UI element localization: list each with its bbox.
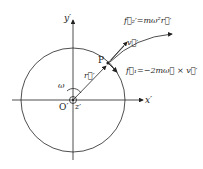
point-p <box>106 61 109 64</box>
x-axis-label: x′ <box>145 96 152 105</box>
f1-arrow <box>108 63 117 72</box>
point-label: P <box>98 56 104 65</box>
f1-label: f⃗₁=−2mω⃗ × v⃗′ <box>126 67 197 75</box>
rotating-frame-diagram: y′ x′ O′ z′ ω P r⃗′ v⃗′ f⃗₂′=mω²r⃗′ f⃗₁=… <box>0 0 203 169</box>
trajectory-curve <box>110 34 172 62</box>
omega-arc <box>67 89 81 93</box>
r-vector-label: r⃗′ <box>84 72 94 80</box>
v-vector-label: v⃗′ <box>127 39 138 47</box>
y-axis-label: y′ <box>64 14 71 23</box>
v-arrow <box>111 46 124 60</box>
diagram-canvas <box>0 0 203 169</box>
z-axis-label: z′ <box>75 103 81 111</box>
f2-label: f⃗₂′=mω²r⃗′ <box>124 17 171 25</box>
origin-label: O′ <box>59 103 68 112</box>
omega-label: ω <box>58 82 65 90</box>
